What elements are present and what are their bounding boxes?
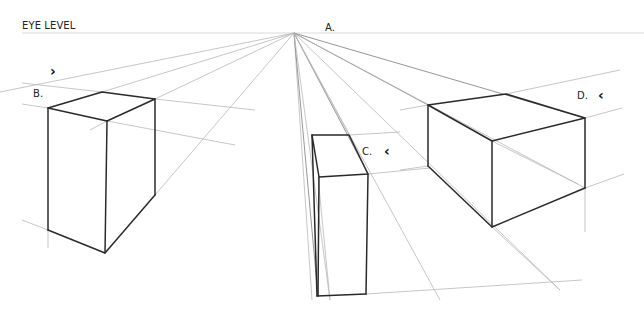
chevron-left-icon: ‹ [598,88,604,102]
box-c [312,135,368,296]
eye-level-label: EYE LEVEL [22,20,75,31]
perspective-guides [0,33,624,300]
box-b [48,92,155,253]
label-c: C. [362,146,372,157]
label-b: B. [33,88,43,99]
perspective-drawing [0,0,644,314]
label-d: D. [577,90,588,101]
box-d [428,94,585,227]
chevron-left-icon: ‹ [384,144,390,158]
label-a: A. [325,22,335,33]
chevron-right-icon: › [50,64,56,78]
